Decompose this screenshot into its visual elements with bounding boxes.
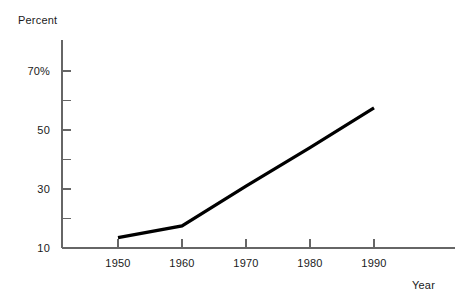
series-line-0 (118, 108, 374, 238)
chart-plot-area (0, 0, 461, 307)
x-tick-label: 1990 (361, 257, 386, 269)
y-tick-label: 50 (0, 124, 50, 136)
x-tick-label: 1960 (169, 257, 194, 269)
x-tick-label: 1970 (233, 257, 258, 269)
y-tick-label: 30 (0, 183, 50, 195)
chart-axes (62, 40, 455, 248)
y-tick-label: 70% (0, 65, 50, 77)
y-axis-title: Percent (18, 14, 57, 26)
x-tick-label: 1950 (105, 257, 130, 269)
line-chart: Percent Year 10305070% 19501960197019801… (0, 0, 461, 307)
chart-tick-marks (62, 71, 374, 248)
y-tick-label: 10 (0, 242, 50, 254)
chart-data-series (118, 108, 374, 238)
x-axis-title: Year (412, 279, 435, 291)
x-tick-label: 1980 (297, 257, 322, 269)
